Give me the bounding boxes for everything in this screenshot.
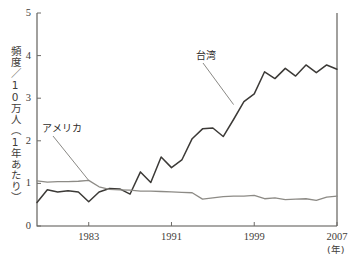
x-axis-unit-label: (年) xyxy=(327,245,344,254)
x-tick-label: 1983 xyxy=(69,232,109,243)
y-tick-label: 0 xyxy=(17,221,31,232)
y-tick-label: 5 xyxy=(17,8,31,19)
x-tick-label: 1991 xyxy=(151,232,191,243)
series-label-america: アメリカ xyxy=(42,124,82,134)
x-tick-label: 1999 xyxy=(234,232,274,243)
line-chart: 012345 1983199119992007 頻度／10万人（1年あたり） (… xyxy=(0,0,353,254)
y-axis-title: 頻度／10万人（1年あたり） xyxy=(6,46,22,216)
series-label-taiwan: 台湾 xyxy=(196,51,216,61)
x-tick-label: 2007 xyxy=(317,232,353,243)
